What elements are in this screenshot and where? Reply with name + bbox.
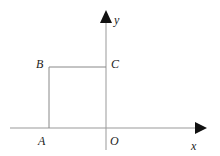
x-axis-label: x xyxy=(190,139,197,153)
x-axis-arrow-icon xyxy=(195,122,207,134)
coordinate-diagram: y x O A B C xyxy=(0,0,220,156)
y-axis-label: y xyxy=(113,13,120,27)
point-b-label: B xyxy=(36,57,44,71)
origin-label: O xyxy=(110,134,119,148)
point-a-label: A xyxy=(37,134,46,148)
point-c-label: C xyxy=(111,57,120,71)
y-axis-arrow-icon xyxy=(100,10,112,23)
